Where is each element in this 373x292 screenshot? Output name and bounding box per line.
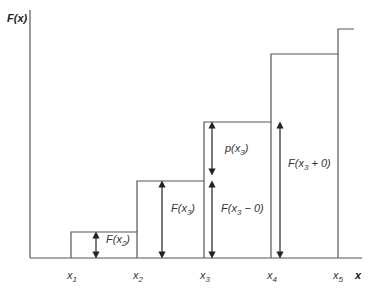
label-f-x2: F(x2) xyxy=(106,233,130,248)
tick-x3: x3 xyxy=(199,269,211,284)
x-axis-label: x xyxy=(354,269,362,281)
tick-x5: x5 xyxy=(332,269,344,284)
label-f-x3-plus-0: F(x3 + 0) xyxy=(288,157,331,172)
label-p-x3: p(x3) xyxy=(224,142,249,157)
cdf-step-diagram: F(x) x x1 x2 x3 x4 x5 F(x2) F(x3) p(x3) … xyxy=(0,0,373,292)
y-axis-label: F(x) xyxy=(7,12,28,24)
tick-x1: x1 xyxy=(66,269,77,284)
label-f-x3: F(x3) xyxy=(171,202,195,217)
arrows xyxy=(96,125,280,255)
label-f-x3-minus-0: F(x3 − 0) xyxy=(221,202,264,217)
tick-x2: x2 xyxy=(132,269,144,284)
tick-x4: x4 xyxy=(266,269,278,284)
